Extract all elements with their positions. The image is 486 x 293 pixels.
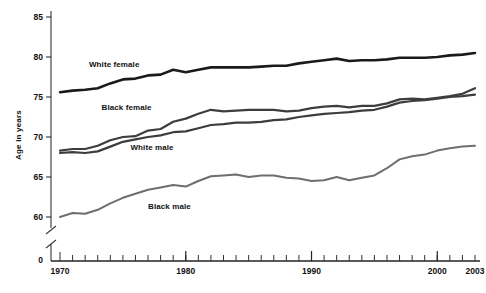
series-label-white-male: White male <box>130 143 173 152</box>
y-tick-label: 60 <box>15 212 43 222</box>
y-tick-label: 80 <box>15 52 43 62</box>
life-expectancy-line-chart: Age in years 6065707580850 1970198019902… <box>0 0 486 293</box>
x-tick-label: 1990 <box>292 266 332 276</box>
series-line-white-female <box>60 53 475 92</box>
y-tick-label: 70 <box>15 132 43 142</box>
y-tick-label-zero: 0 <box>15 255 43 265</box>
x-tick-label: 1970 <box>40 266 80 276</box>
y-tick-label: 75 <box>15 92 43 102</box>
y-tick-label: 65 <box>15 172 43 182</box>
series-lines-group <box>60 53 475 217</box>
y-tick-label: 85 <box>15 12 43 22</box>
ticks-group <box>46 17 475 261</box>
series-line-black-male <box>60 146 475 217</box>
series-label-black-female: Black female <box>102 103 152 112</box>
axes-group <box>46 11 480 261</box>
chart-plot-area <box>0 0 486 293</box>
series-label-white-female: White female <box>89 60 140 69</box>
series-label-black-male: Black male <box>148 202 191 211</box>
x-tick-label: 2003 <box>455 266 486 276</box>
x-tick-label: 2000 <box>417 266 457 276</box>
x-tick-label: 1980 <box>166 266 206 276</box>
